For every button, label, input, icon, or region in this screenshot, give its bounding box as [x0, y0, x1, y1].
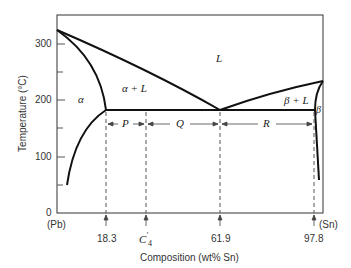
dimension-arrows [108, 122, 312, 126]
segment-q: Q [176, 117, 184, 129]
x-left-end-label: (Pb) [47, 219, 66, 230]
region-beta-liquid: β + L [284, 94, 309, 106]
composition-guides [106, 112, 314, 213]
y-tick-100: 100 [35, 151, 52, 162]
marker-97-8: 97.8 [304, 233, 323, 244]
segment-r: R [263, 117, 270, 129]
y-tick-300: 300 [35, 38, 52, 49]
x-right-end-label: (Sn) [319, 219, 338, 230]
marker-c4-subscript: 4 [148, 239, 152, 248]
solvus-alpha-line [67, 110, 106, 185]
y-axis-label: Temperature (°C) [17, 69, 28, 159]
marker-61-9: 61.9 [211, 233, 230, 244]
y-tick-200: 200 [35, 94, 52, 105]
solvus-beta-line [315, 110, 319, 180]
y-ticks [57, 44, 65, 185]
y-tick-0: 0 [46, 207, 52, 218]
marker-c4-prime: C′4 [139, 231, 152, 248]
region-alpha: α [78, 93, 84, 105]
segment-p: P [122, 117, 129, 129]
region-liquid: L [216, 52, 222, 64]
composition-arrows [104, 215, 316, 226]
x-axis-label: Composition (wt% Sn) [140, 252, 239, 263]
plot-frame [57, 15, 323, 213]
marker-18-3: 18.3 [97, 233, 116, 244]
region-beta: β [316, 104, 321, 115]
region-alpha-liquid: α + L [122, 82, 147, 94]
